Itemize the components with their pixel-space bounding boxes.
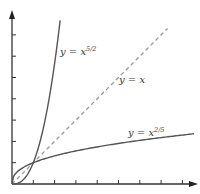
curve-x-2-5 (12, 134, 194, 184)
label-x-2-5: y = x2/5 (127, 126, 165, 138)
axes (12, 16, 192, 184)
x-axis-arrow-icon (189, 181, 198, 187)
label-x: y = x (118, 74, 145, 85)
curve-x-5-2 (12, 20, 60, 184)
y-axis-arrow-icon (9, 10, 15, 19)
power-function-chart: y = x5/2 y = x y = x2/5 (0, 0, 200, 194)
label-x-5-2: y = x5/2 (59, 45, 97, 57)
